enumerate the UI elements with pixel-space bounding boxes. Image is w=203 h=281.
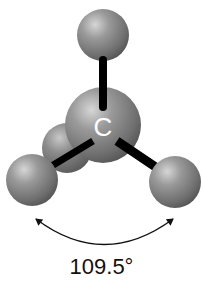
atom-front-left xyxy=(6,154,58,206)
atom-front-right xyxy=(149,156,201,208)
bond-angle-label: 109.5° xyxy=(0,254,203,280)
molecule-diagram: C 109.5° xyxy=(0,0,203,281)
angle-arc xyxy=(36,219,173,245)
carbon-symbol: C xyxy=(94,112,113,142)
atom-top xyxy=(77,9,129,61)
molecule-svg: C xyxy=(0,0,203,281)
